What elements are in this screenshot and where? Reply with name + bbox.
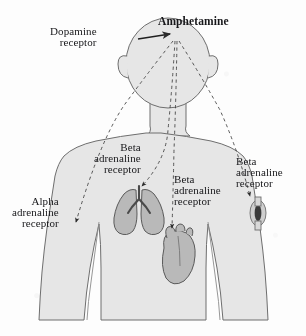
connector-beta-lungs: [142, 41, 175, 186]
connector-dopamine: [138, 34, 170, 39]
dopamine-line-2: receptor: [50, 37, 97, 48]
beta-receptor-lungs-label: Beta adrenaline receptor: [94, 142, 141, 176]
beta-receptor-vessel-label: Beta adrenaline receptor: [236, 156, 283, 190]
amphetamine-label: Amphetamine: [158, 16, 229, 28]
beta-lung-line-3: receptor: [94, 164, 141, 175]
anatomy-diagram: Amphetamine Dopamine receptor Beta adren…: [0, 0, 306, 336]
connector-alpha-arm: [76, 41, 173, 222]
alpha-receptor-label: Alpha adrenaline receptor: [12, 196, 59, 230]
dopamine-receptor-label: Dopamine receptor: [50, 26, 97, 48]
beta-heart-line-3: receptor: [174, 196, 221, 207]
beta-receptor-heart-label: Beta adrenaline receptor: [174, 174, 221, 208]
beta-vessel-line-3: receptor: [236, 178, 283, 189]
alpha-line-3: receptor: [12, 218, 59, 229]
